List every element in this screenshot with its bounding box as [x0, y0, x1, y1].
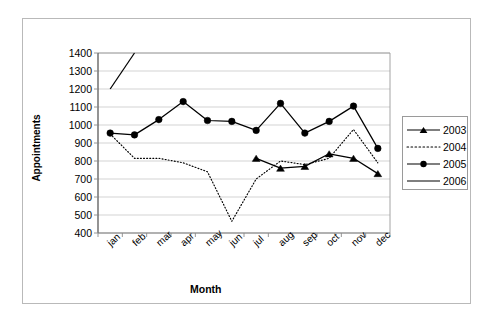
legend-item-2005: 2005 [403, 155, 467, 173]
legend-item-2004: 2004 [403, 138, 467, 156]
data-point-2005 [180, 98, 187, 105]
legend-swatch-2004 [406, 138, 441, 156]
chart-legend: 2003200420052006 [402, 116, 468, 190]
legend-swatch-2005 [406, 155, 441, 173]
data-point-2005 [229, 118, 236, 125]
data-point-2005 [302, 130, 309, 137]
series-2003 [252, 151, 381, 177]
data-point-2005 [375, 145, 382, 152]
legend-label: 2003 [443, 124, 466, 136]
legend-label: 2005 [443, 158, 466, 170]
legend-label: 2006 [443, 175, 466, 187]
legend-item-2006: 2006 [403, 172, 467, 190]
chart-figure: Appointments 140013001200110010009008007… [0, 0, 493, 324]
legend-swatch-2003 [406, 121, 441, 139]
data-point-2003 [252, 155, 260, 161]
data-point-2005 [131, 132, 138, 139]
data-point-2005 [326, 118, 333, 125]
data-point-2005 [107, 130, 114, 137]
data-point-2005 [253, 127, 260, 134]
x-axis-title: Month [190, 283, 222, 295]
data-point-2005 [350, 103, 357, 110]
legend-label: 2004 [443, 141, 466, 153]
legend-swatch-2006 [406, 172, 441, 190]
series-line-2003 [256, 154, 378, 174]
data-point-2005 [156, 116, 163, 123]
legend-item-2003: 2003 [403, 121, 467, 139]
data-point-2005 [204, 117, 211, 124]
data-point-2005 [277, 100, 284, 107]
